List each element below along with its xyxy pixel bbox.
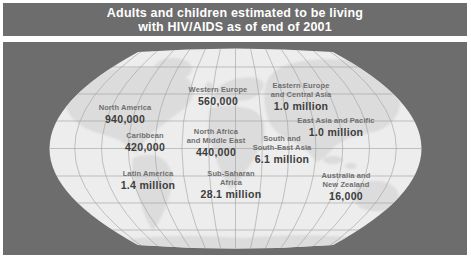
region-name: and Central Asia — [271, 90, 332, 99]
region-name: North America — [99, 103, 152, 112]
region-name: South and — [253, 134, 312, 143]
region-label-latin-america: Latin America 1.4 million — [121, 169, 176, 191]
map-panel: North America 940,000 Caribbean 420,000 … — [3, 42, 467, 255]
region-name: Africa — [201, 178, 262, 187]
region-name: Latin America — [121, 169, 176, 178]
indonesia — [323, 156, 343, 164]
region-value: 1.0 million — [271, 100, 332, 112]
region-name: New Zealand — [322, 180, 371, 189]
region-value: 1.4 million — [121, 179, 176, 191]
region-name: Eastern Europe — [271, 81, 332, 90]
new-zealand — [412, 198, 418, 210]
region-name: Australia and — [322, 171, 371, 180]
figure-slide: Adults and children estimated to be livi… — [0, 0, 471, 266]
region-label-north-africa-middle-east: North Africa and Middle East 440,000 — [187, 127, 246, 158]
region-label-western-europe: Western Europe 560,000 — [189, 85, 248, 107]
region-value: 28.1 million — [201, 188, 262, 200]
region-name: East Asia and Pacific — [297, 116, 374, 125]
region-name: South-East Asia — [253, 143, 312, 152]
region-value: 560,000 — [189, 95, 248, 107]
region-value: 6.1 million — [253, 153, 312, 165]
region-label-north-america: North America 940,000 — [99, 103, 152, 125]
region-value: 940,000 — [99, 113, 152, 125]
region-value: 16,000 — [322, 190, 371, 202]
region-name: North Africa — [187, 127, 246, 136]
title-bar: Adults and children estimated to be livi… — [3, 3, 467, 36]
region-label-south-south-east-asia: South and South-East Asia 6.1 million — [253, 134, 312, 165]
title-line-1: Adults and children estimated to be livi… — [3, 6, 467, 20]
region-name: Caribbean — [125, 131, 165, 140]
region-label-caribbean: Caribbean 420,000 — [125, 131, 165, 153]
region-value: 440,000 — [187, 146, 246, 158]
region-name: and Middle East — [187, 136, 246, 145]
region-name: Sub-Saharan — [201, 169, 262, 178]
region-label-australia-new-zealand: Australia and New Zealand 16,000 — [322, 171, 371, 202]
title-line-2: with HIV/AIDS as of end of 2001 — [3, 20, 467, 34]
region-label-eastern-europe-central-asia: Eastern Europe and Central Asia 1.0 mill… — [271, 81, 332, 112]
region-label-sub-saharan-africa: Sub-Saharan Africa 28.1 million — [201, 169, 262, 200]
region-value: 420,000 — [125, 141, 165, 153]
philippines — [345, 163, 357, 169]
region-name: Western Europe — [189, 85, 248, 94]
